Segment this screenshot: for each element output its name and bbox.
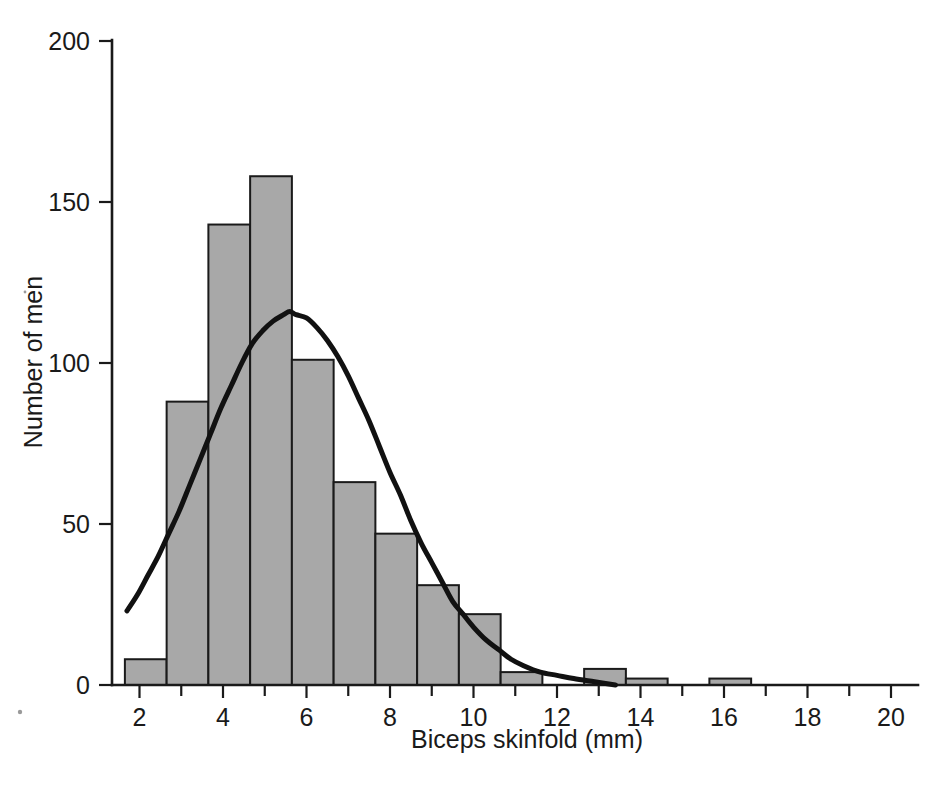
x-tick-label: 6 (300, 703, 314, 731)
histogram-bar (459, 614, 501, 685)
y-tick-label: 150 (48, 188, 90, 216)
histogram-bar (375, 534, 417, 685)
y-tick-label: 50 (62, 510, 90, 538)
histogram-bar (501, 672, 543, 685)
scan-speck (18, 710, 22, 714)
histogram-bar (125, 659, 167, 685)
histogram-bar (292, 360, 334, 685)
x-tick-label: 18 (794, 703, 822, 731)
x-tick-label: 2 (133, 703, 147, 731)
histogram-bar (208, 225, 250, 685)
y-tick-label: 100 (48, 349, 90, 377)
chart-svg: 050100150200 2468101214161820 Biceps ski… (0, 0, 934, 790)
histogram-bar (334, 482, 376, 685)
x-tick-label: 4 (216, 703, 230, 731)
y-tick-label: 0 (76, 671, 90, 699)
x-axis-title: Biceps skinfold (mm) (411, 725, 643, 753)
histogram-bar (167, 402, 209, 685)
x-tick-label: 16 (710, 703, 738, 731)
histogram-bar (250, 176, 292, 685)
y-tick-label: 200 (48, 27, 90, 55)
x-tick-label: 8 (383, 703, 397, 731)
y-axis-title: Number of men (19, 276, 47, 448)
x-tick-label: 20 (877, 703, 905, 731)
histogram-figure: 050100150200 2468101214161820 Biceps ski… (0, 0, 934, 790)
